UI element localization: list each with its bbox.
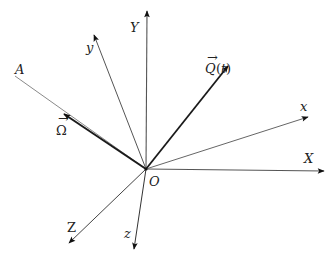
- label-q: → Q ( t ): [205, 50, 231, 76]
- coordinate-diagram: O Y y A x X Z z → Ω → Q ( t ): [0, 0, 333, 261]
- vector-omega: [64, 114, 146, 169]
- label-y: y: [85, 40, 94, 55]
- axis-Z: [69, 169, 146, 243]
- label-Z: Z: [67, 220, 76, 235]
- label-origin: O: [149, 174, 160, 189]
- label-q-paren-close: ): [226, 61, 231, 76]
- origin-point: [144, 167, 147, 170]
- label-q-symbol: Q: [205, 61, 216, 76]
- label-omega: → Ω: [56, 111, 69, 138]
- axis-X: [146, 169, 324, 171]
- label-z: z: [123, 226, 131, 241]
- axis-z: [134, 169, 146, 249]
- label-x: x: [300, 99, 308, 114]
- axis-Y: [146, 11, 147, 169]
- axis-y: [94, 35, 146, 169]
- label-Y: Y: [130, 20, 140, 35]
- label-omega-symbol: Ω: [56, 123, 67, 138]
- axis-x: [146, 117, 308, 169]
- label-A: A: [14, 62, 24, 77]
- vector-q: [146, 66, 228, 169]
- label-X: X: [303, 151, 314, 166]
